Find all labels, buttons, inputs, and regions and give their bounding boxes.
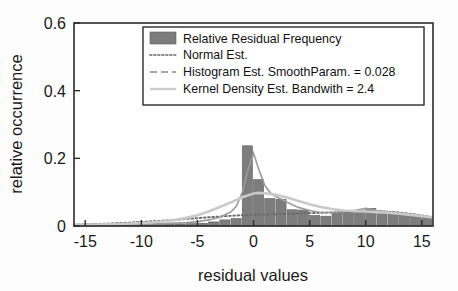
x-tick-label: 15 bbox=[413, 233, 431, 250]
histogram-bar bbox=[388, 213, 398, 226]
histogram-bar bbox=[231, 219, 241, 226]
x-tick-label: 0 bbox=[249, 233, 258, 250]
histogram-bar bbox=[343, 212, 353, 226]
x-tick-label: 10 bbox=[357, 233, 375, 250]
histogram-bar bbox=[377, 212, 387, 226]
histogram-bar bbox=[354, 212, 364, 226]
y-tick-label: 0.4 bbox=[44, 83, 66, 100]
legend-swatch-histogram bbox=[150, 32, 176, 44]
histogram-bar bbox=[287, 210, 297, 226]
y-axis-tick-labels: 00.20.40.6 bbox=[44, 15, 66, 235]
legend-label-histogram-est: Histogram Est. SmoothParam. = 0.028 bbox=[183, 65, 396, 79]
histogram-bar bbox=[321, 216, 331, 226]
histogram-bar bbox=[399, 215, 409, 227]
histogram-bar bbox=[332, 212, 342, 226]
residual-histogram-chart: -15-10-5051015 00.20.40.6 residual value… bbox=[0, 0, 458, 291]
y-tick-label: 0 bbox=[57, 218, 66, 235]
x-tick-label: -15 bbox=[74, 233, 97, 250]
x-tick-label: 5 bbox=[305, 233, 314, 250]
y-tick-label: 0.6 bbox=[44, 15, 66, 32]
histogram-figure: -15-10-5051015 00.20.40.6 residual value… bbox=[0, 0, 458, 291]
histogram-bar bbox=[276, 199, 286, 226]
x-tick-label: -5 bbox=[190, 233, 204, 250]
x-axis-title: residual values bbox=[198, 266, 308, 284]
histogram-bar bbox=[298, 210, 308, 226]
legend-label-histogram: Relative Residual Frequency bbox=[183, 32, 342, 46]
x-tick-label: -10 bbox=[130, 233, 153, 250]
histogram-bar bbox=[220, 220, 230, 226]
histogram-bar bbox=[411, 216, 421, 226]
chart-legend: Relative Residual Frequency Normal Est. … bbox=[143, 27, 424, 105]
histogram-bar bbox=[254, 180, 264, 226]
legend-label-kernel-density: Kernel Density Est. Bandwith = 2.4 bbox=[183, 82, 374, 96]
histogram-bar bbox=[265, 199, 275, 226]
y-tick-label: 0.2 bbox=[44, 150, 66, 167]
x-axis-tick-labels: -15-10-5051015 bbox=[74, 233, 431, 250]
histogram-bar bbox=[310, 216, 320, 226]
y-axis-title: relative occurrence bbox=[7, 54, 25, 193]
legend-label-normal-est: Normal Est. bbox=[183, 48, 248, 62]
